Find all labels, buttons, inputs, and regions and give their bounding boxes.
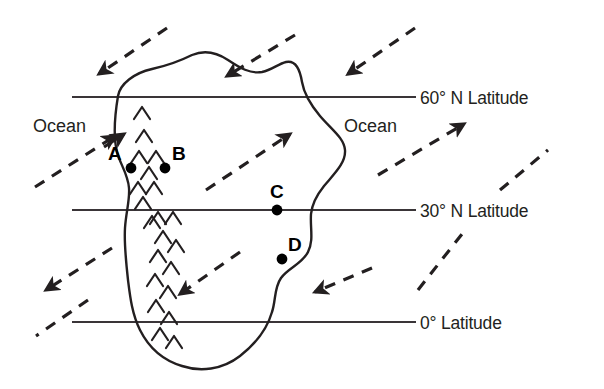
point-label-d: D <box>288 234 302 256</box>
wind-arrow-se-9 <box>315 268 372 292</box>
point-dot-b[interactable] <box>160 163 171 174</box>
ocean-label-east: Ocean <box>344 116 397 137</box>
point-label-a: A <box>108 143 122 165</box>
wind-arrow-sw-7 <box>46 248 112 290</box>
point-dot-d[interactable] <box>277 254 288 265</box>
wind-arrows <box>35 28 548 336</box>
point-label-c: C <box>270 181 284 203</box>
point-dot-a[interactable] <box>126 163 137 174</box>
diagram-svg <box>0 0 604 389</box>
point-dot-c[interactable] <box>272 205 283 216</box>
latitude-label-60: 60° N Latitude <box>420 88 528 109</box>
wind-arrow-sw-11 <box>36 300 88 336</box>
latitude-label-0: 0° Latitude <box>420 313 502 334</box>
ocean-label-west: Ocean <box>33 116 86 137</box>
wind-arrow-ne-3 <box>348 28 415 74</box>
point-label-b: B <box>172 143 186 165</box>
map-points <box>126 163 288 265</box>
wind-arrow-n-2 <box>227 35 295 76</box>
wind-arrow-w-4 <box>35 136 115 187</box>
diagram-canvas: 60° N Latitude 30° N Latitude 0° Latitud… <box>0 0 604 389</box>
wind-arrow-far-ne-12 <box>500 150 548 190</box>
latitude-label-30: 30° N Latitude <box>420 201 528 222</box>
wind-arrow-e-10 <box>418 234 462 290</box>
wind-arrow-s-8 <box>180 252 240 294</box>
